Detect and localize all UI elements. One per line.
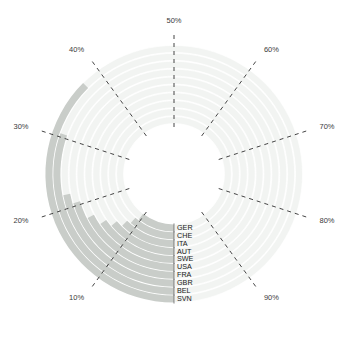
axis-tick-label: 40%	[69, 45, 84, 54]
axis-tick-label: 20%	[13, 216, 28, 225]
polar-chart-canvas: 10%20%30%40%50%60%70%80%90% SVNBELGBRFRA…	[0, 0, 356, 355]
polar-bar-chart: 10%20%30%40%50%60%70%80%90% SVNBELGBRFRA…	[0, 0, 356, 355]
axis-tick-label: 90%	[264, 293, 279, 302]
category-label: CHE	[177, 231, 192, 240]
track-ring	[117, 117, 232, 232]
category-label: ITA	[177, 239, 188, 248]
axis-tick-label: 60%	[264, 45, 279, 54]
category-label: USA	[177, 262, 192, 271]
category-label: SWE	[177, 254, 194, 263]
category-label: FRA	[177, 270, 192, 279]
track-ring	[109, 109, 240, 240]
axis-tick-label: 30%	[13, 122, 28, 131]
category-label: GBR	[177, 278, 193, 287]
category-label: AUT	[177, 247, 192, 256]
axis-tick-label: 80%	[320, 216, 335, 225]
axis-tick-label: 70%	[320, 122, 335, 131]
category-label: GER	[177, 223, 193, 232]
axis-tick-label: 10%	[69, 293, 84, 302]
category-label: SVN	[177, 294, 192, 303]
axis-tick-label: 50%	[166, 16, 181, 25]
category-label: BEL	[177, 286, 191, 295]
